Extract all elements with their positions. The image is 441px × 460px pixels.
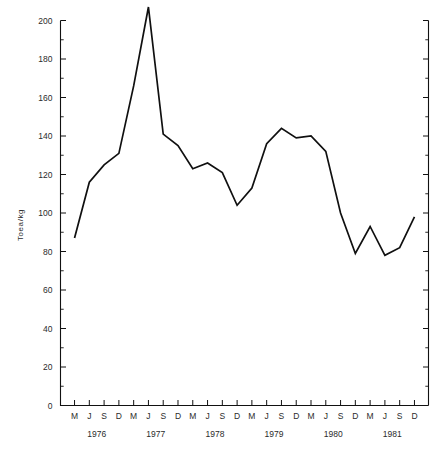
- x-axis-year-label: 1981: [383, 429, 402, 439]
- x-axis-year-label: 1978: [205, 429, 224, 439]
- line-chart: Toea/kg 020406080100120140160180200 MJSD…: [0, 0, 441, 460]
- x-tick-label: M: [367, 411, 374, 421]
- y-tick-label: 80: [43, 247, 53, 257]
- y-tick-label: 140: [38, 131, 52, 141]
- x-tick-label: S: [101, 411, 107, 421]
- x-tick-label: D: [293, 411, 299, 421]
- axis-frame-left-bottom: [61, 21, 429, 406]
- x-tick-label: S: [219, 411, 225, 421]
- chart-svg: Toea/kg 020406080100120140160180200 MJSD…: [0, 0, 441, 460]
- y-tick-label: 40: [43, 324, 53, 334]
- x-tick-label: S: [160, 411, 166, 421]
- x-tick-label: J: [87, 411, 91, 421]
- y-tick-label: 200: [38, 16, 52, 26]
- x-tick-label: J: [146, 411, 150, 421]
- x-axis-year-label: 1977: [146, 429, 165, 439]
- y-tick-label: 160: [38, 93, 52, 103]
- x-tick-label: D: [234, 411, 240, 421]
- x-tick-label: J: [265, 411, 269, 421]
- x-axis-year-label: 1976: [87, 429, 106, 439]
- x-tick-label: J: [383, 411, 387, 421]
- x-axis-year-label: 1980: [324, 429, 343, 439]
- y-tick-label: 0: [48, 401, 53, 411]
- y-tick-label: 120: [38, 170, 52, 180]
- x-tick-label: M: [71, 411, 78, 421]
- x-tick-label: D: [411, 411, 417, 421]
- y-tick-label: 100: [38, 208, 52, 218]
- x-axis-year-labels: 197619771978197919801981: [87, 429, 402, 439]
- x-tick-label: M: [307, 411, 314, 421]
- x-tick-label: M: [189, 411, 196, 421]
- x-tick-label: J: [324, 411, 328, 421]
- x-tick-label: M: [130, 411, 137, 421]
- x-tick-label: S: [279, 411, 285, 421]
- x-axis-year-label: 1979: [265, 429, 284, 439]
- x-axis-ticks: [75, 400, 415, 406]
- right-axis-ticks: [423, 21, 429, 387]
- y-tick-label: 20: [43, 362, 53, 372]
- data-series-line: [75, 7, 415, 255]
- x-tick-label: J: [205, 411, 209, 421]
- y-axis-tick-labels: 020406080100120140160180200: [38, 16, 52, 411]
- y-tick-label: 60: [43, 285, 53, 295]
- x-tick-label: D: [116, 411, 122, 421]
- x-tick-label: D: [175, 411, 181, 421]
- x-tick-label: D: [352, 411, 358, 421]
- y-tick-label: 180: [38, 54, 52, 64]
- x-tick-label: M: [248, 411, 255, 421]
- y-axis-title: Toea/kg: [16, 209, 25, 241]
- x-tick-label: S: [338, 411, 344, 421]
- figure-caption: [28, 452, 418, 460]
- x-axis-tick-labels: MJSDMJSDMJSDMJSDMJSDMJSD: [71, 411, 418, 421]
- x-tick-label: S: [397, 411, 403, 421]
